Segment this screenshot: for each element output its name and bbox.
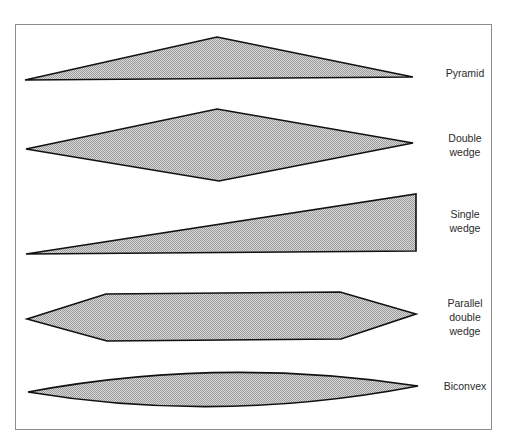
parallel-double-wedge-shape [27, 292, 416, 341]
label-single-wedge: Single wedge [430, 207, 500, 235]
label-double-wedge: Double wedge [430, 131, 500, 159]
single-wedge-shape [26, 194, 416, 254]
double-wedge-shape [26, 109, 413, 181]
pyramid-shape [25, 37, 413, 80]
label-biconvex: Biconvex [430, 379, 500, 393]
biconvex-shape [28, 372, 418, 406]
label-pyramid: Pyramid [430, 66, 500, 80]
label-parallel-double-wedge: Parallel double wedge [430, 296, 500, 338]
